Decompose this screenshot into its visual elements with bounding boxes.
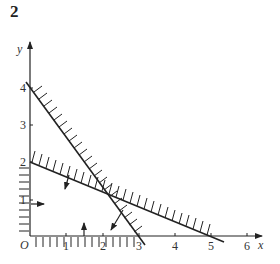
- arrow-down-left-icon-2: [111, 210, 123, 230]
- y-tick-4: 4: [20, 81, 26, 95]
- y-tick-3: 3: [20, 118, 26, 132]
- x-tick-2: 2: [100, 239, 106, 253]
- x-tick-4: 4: [172, 239, 178, 253]
- x-tick-5: 5: [208, 239, 214, 253]
- y-tick-1: 1: [20, 193, 26, 207]
- region-arrows: [31, 175, 123, 236]
- line-4x-3y-12: [26, 82, 145, 245]
- x-axis-hatching: [36, 237, 134, 247]
- axis-ticks: [30, 88, 247, 236]
- line-2x-5y-10: [30, 151, 224, 242]
- linear-programming-diagram: O x y 1 2 3 4 5 6 1 2 3 4: [0, 0, 280, 264]
- y-tick-2: 2: [20, 155, 26, 169]
- y-axis-label: y: [16, 42, 23, 56]
- x-tick-1: 1: [63, 239, 69, 253]
- origin-label: O: [20, 238, 29, 252]
- x-tick-3: 3: [136, 239, 142, 253]
- x-axis-label: x: [257, 238, 264, 252]
- x-tick-6: 6: [244, 239, 250, 253]
